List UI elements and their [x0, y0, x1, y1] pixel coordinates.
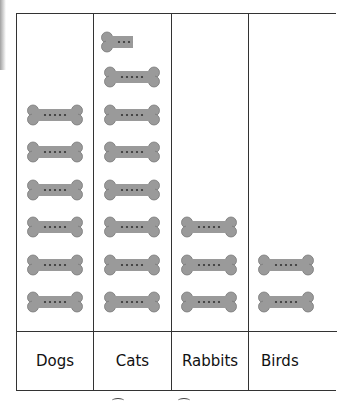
bone-icon — [181, 216, 237, 238]
bone-icon — [258, 254, 314, 276]
bone-icon — [181, 254, 237, 276]
label-text: Dogs — [36, 352, 74, 370]
label-text: Birds — [261, 352, 299, 370]
column-rabbits: Rabbits — [172, 14, 249, 390]
label-text: Rabbits — [182, 352, 238, 370]
category-label-cats: Cats — [94, 331, 171, 390]
bone-icon — [258, 291, 314, 313]
half-bone-icon — [101, 31, 133, 53]
bone-icon — [27, 179, 83, 201]
bone-icon — [104, 141, 160, 163]
decorative-mark — [178, 398, 190, 403]
category-label-dogs: Dogs — [17, 331, 93, 390]
pictograph-chart: Dogs Cats Rabbits Birds — [16, 13, 336, 391]
label-text: Cats — [116, 352, 149, 370]
bone-icon — [27, 141, 83, 163]
bone-icon — [27, 216, 83, 238]
column-dogs: Dogs — [17, 14, 94, 390]
bone-icon — [27, 291, 83, 313]
bone-icon — [104, 104, 160, 126]
bone-icon — [104, 179, 160, 201]
bone-icon — [104, 291, 160, 313]
bone-icon — [27, 254, 83, 276]
column-birds: Birds — [249, 14, 337, 390]
bone-icon — [104, 66, 160, 88]
page-edge-shadow — [0, 0, 6, 70]
bone-icon — [181, 291, 237, 313]
category-label-birds: Birds — [249, 331, 337, 390]
bone-icon — [27, 104, 83, 126]
decorative-mark — [112, 398, 124, 403]
category-label-rabbits: Rabbits — [172, 331, 248, 390]
bone-icon — [104, 254, 160, 276]
bone-icon — [104, 216, 160, 238]
